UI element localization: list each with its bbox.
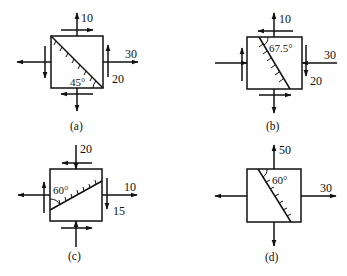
- label-right-shear-c: 15: [113, 204, 125, 218]
- label-right-normal-d: 30: [320, 181, 332, 195]
- label-right-normal-c: 10: [124, 180, 136, 194]
- label-right-normal-a: 30: [125, 47, 137, 61]
- label-top-normal-a: 10: [81, 11, 93, 25]
- angle-arc-c: [50, 199, 60, 205]
- label-top-normal-b: 10: [279, 12, 291, 26]
- angle-arc-d: [263, 169, 267, 177]
- angle-label-a: 45°: [70, 76, 85, 88]
- stress-element-a: [17, 13, 138, 111]
- label-top-normal-d: 50: [279, 143, 291, 157]
- stress-element-c: [18, 145, 137, 247]
- stress-element-b: [215, 13, 337, 113]
- label-right-shear-b: 20: [310, 74, 322, 88]
- angle-arc-a: [93, 81, 96, 88]
- caption-d: (d): [265, 251, 279, 264]
- label-right-normal-b: 30: [324, 48, 336, 62]
- stress-element-figure: 10 30 20 45° (a) 10 30 20 67.5° (b): [0, 0, 347, 276]
- angle-arc-b: [264, 37, 268, 45]
- angle-label-d: 60°: [272, 174, 287, 186]
- label-right-shear-a: 20: [112, 72, 124, 86]
- stress-element-d: [215, 145, 336, 246]
- caption-c: (c): [68, 250, 81, 263]
- angle-label-b: 67.5°: [269, 42, 293, 54]
- caption-b: (b): [266, 120, 280, 133]
- hatching-a: [54, 41, 92, 81]
- caption-a: (a): [70, 120, 83, 133]
- angle-label-c: 60°: [53, 184, 68, 196]
- label-top-normal-c: 20: [80, 142, 92, 156]
